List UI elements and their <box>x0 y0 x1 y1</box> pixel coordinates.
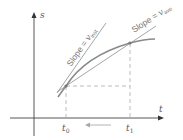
secant-label-prefix: Slope = <box>130 9 162 35</box>
point-t1 <box>128 41 131 44</box>
t1-label: t1 <box>126 123 133 134</box>
t-axis-label: t <box>159 104 163 114</box>
svg-text:Slope = vinst: Slope = vinst <box>64 25 99 68</box>
t0-label: t0 <box>62 123 70 134</box>
t1-sub: 1 <box>130 127 134 134</box>
secant-label-sub: ave <box>162 5 173 15</box>
tangent-line <box>57 23 106 93</box>
t-axis-arrow-icon <box>158 116 164 121</box>
left-arrow-icon <box>85 123 111 128</box>
s-axis-label: s <box>40 10 45 20</box>
point-t0 <box>64 84 67 87</box>
svg-text:Slope = vave: Slope = vave <box>130 2 174 35</box>
secant-slope-label: Slope = vave <box>130 2 174 35</box>
t0-sub: 0 <box>66 127 70 134</box>
tangent-slope-label: Slope = vinst <box>64 25 99 68</box>
tangent-label-sub: inst <box>89 28 99 39</box>
diagram-canvas: s t Slope = vinst Slope = vave t0 t1 <box>0 0 183 140</box>
s-axis-arrow-icon <box>32 12 37 18</box>
